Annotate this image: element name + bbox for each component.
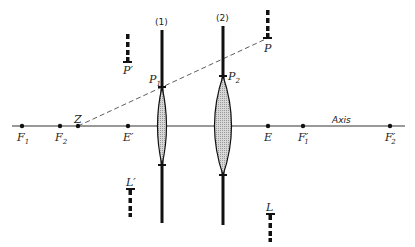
axis-label: Axis: [331, 115, 351, 125]
lens-1-label: (1): [155, 17, 168, 27]
svg-text:E: E: [263, 131, 272, 144]
label-p-prime: P′: [122, 64, 133, 77]
object-p: [263, 10, 272, 39]
label-p1: P1: [148, 73, 161, 88]
svg-text:F1: F1: [16, 131, 29, 146]
object-l-prime: [126, 188, 135, 217]
optics-diagram: Axis (1) (2) P1 P2 P P′: [0, 0, 415, 247]
axis-point-e-prime: E′: [122, 124, 134, 144]
axis-point-f2: F2: [54, 124, 68, 146]
svg-text:Z: Z: [73, 113, 82, 126]
axis-point-f1: F1: [16, 124, 29, 146]
label-p2: P2: [227, 70, 240, 85]
svg-text:F′2: F′2: [384, 131, 396, 146]
object-p-prime: [123, 34, 132, 63]
axis-point-f2-prime: F′2: [384, 124, 396, 146]
label-l: L: [265, 201, 273, 214]
lens-2-label: (2): [216, 13, 229, 23]
axis-point-e: E: [263, 124, 272, 144]
axis-point-z: Z: [73, 113, 82, 128]
svg-text:E′: E′: [122, 131, 134, 144]
svg-text:F′1: F′1: [297, 131, 309, 146]
label-p: P: [263, 42, 272, 55]
object-l: [266, 213, 275, 242]
svg-text:F2: F2: [54, 131, 68, 146]
label-l-prime: L′: [125, 176, 136, 189]
lens-1: [158, 30, 167, 223]
lens-2: [215, 26, 232, 225]
axis-point-f1-prime: F′1: [297, 124, 309, 146]
